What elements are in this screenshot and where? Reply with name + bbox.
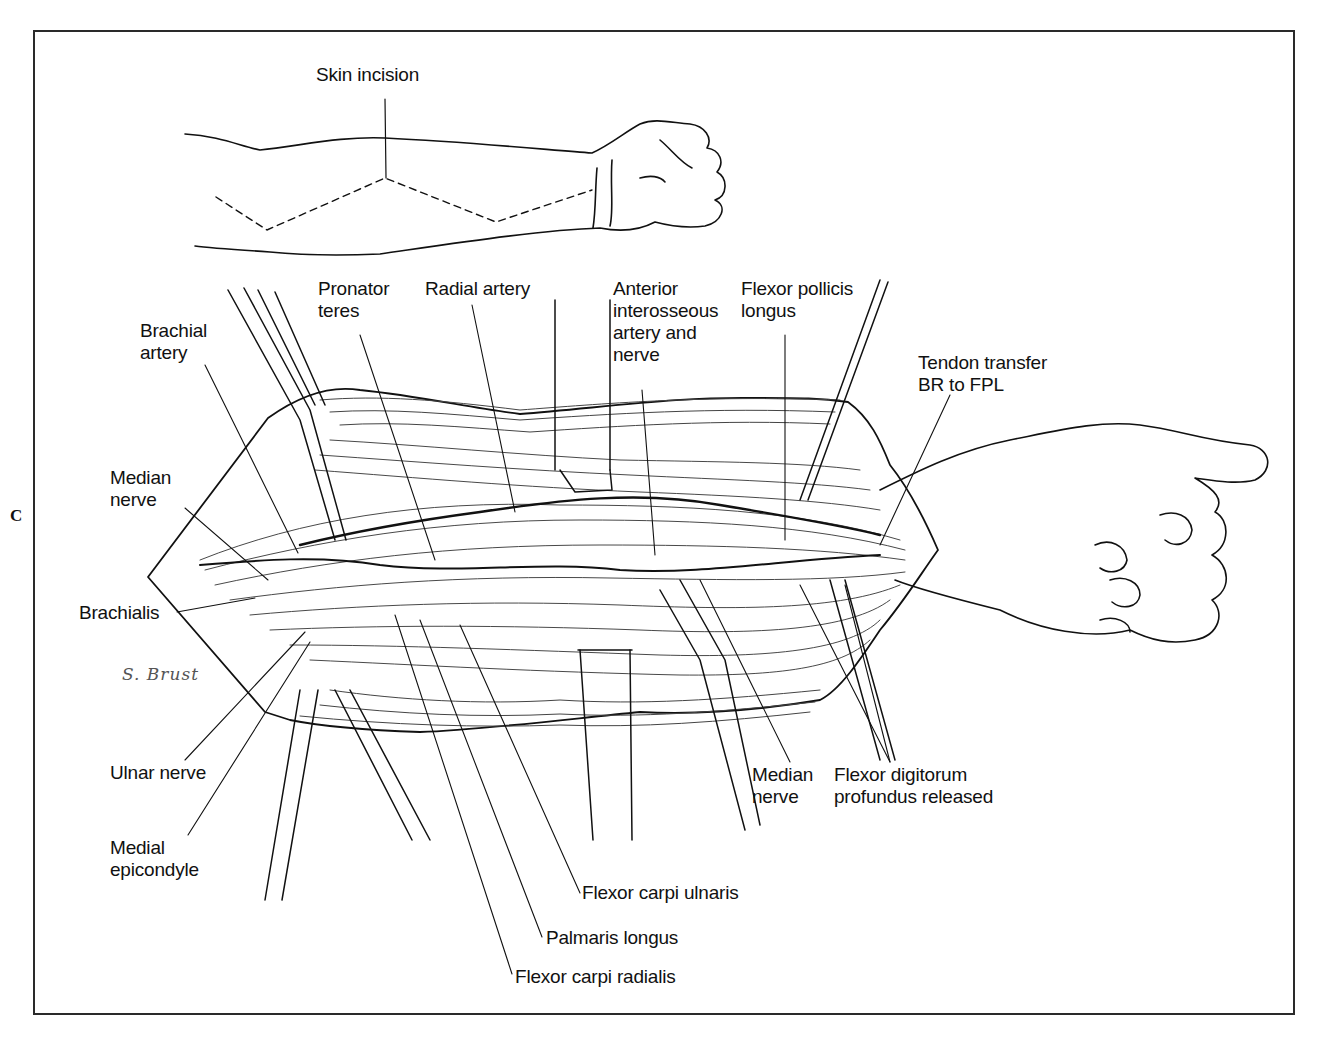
label-median-nerve-right: Median nerve <box>752 764 813 808</box>
label-brachialis: Brachialis <box>79 602 159 624</box>
fat-layer-top <box>320 398 840 432</box>
skin-incision-leader <box>385 99 386 178</box>
panel-letter: C <box>10 506 22 526</box>
retractor-bottom-right <box>660 580 760 830</box>
radial-artery-vessel <box>300 497 880 545</box>
label-medial-epicondyle: Medial epicondyle <box>110 837 199 881</box>
skin-incision-line <box>216 178 592 230</box>
muscle-bundles <box>200 440 905 675</box>
label-brachial-artery: Brachial artery <box>140 320 207 364</box>
retractor-bottom-center <box>578 650 632 840</box>
retractor-left <box>228 288 346 540</box>
label-skin-incision: Skin incision <box>316 64 419 86</box>
artist-signature: S. Brust <box>122 664 199 684</box>
label-ulnar-nerve: Ulnar nerve <box>110 762 206 784</box>
retractor-right <box>800 280 895 760</box>
forearm-outline-upper <box>185 121 725 255</box>
label-median-nerve-left: Median nerve <box>110 467 171 511</box>
label-flexor-digitorum-profundus: Flexor digitorum profundus released <box>834 764 993 808</box>
label-tendon-transfer: Tendon transfer BR to FPL <box>918 352 1047 396</box>
label-radial-artery: Radial artery <box>425 278 530 300</box>
label-pronator-teres: Pronator teres <box>318 278 389 322</box>
label-flexor-carpi-ulnaris: Flexor carpi ulnaris <box>582 882 739 904</box>
label-flexor-pollicis-longus: Flexor pollicis longus <box>741 278 853 322</box>
label-palmaris-longus: Palmaris longus <box>546 927 678 949</box>
label-flexor-carpi-radialis: Flexor carpi radialis <box>515 966 676 988</box>
hand-lower <box>880 424 1268 642</box>
retractor-top-center <box>555 300 612 492</box>
retractor-bottom-left <box>265 690 430 900</box>
label-anterior-interosseous: Anterior interosseous artery and nerve <box>613 278 718 366</box>
